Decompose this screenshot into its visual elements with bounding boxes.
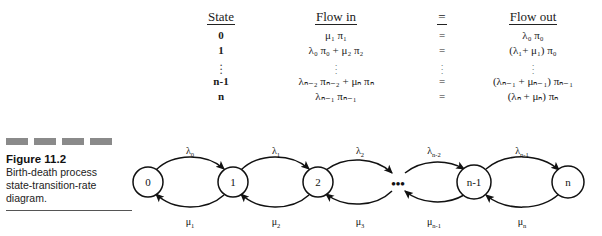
birth-transition-arcs <box>156 157 559 173</box>
cell-equals: = <box>420 43 464 58</box>
header-flow-in-label: Flow in <box>315 10 357 25</box>
state-nodes-ellipsis: ••• <box>391 176 405 191</box>
header-flow-out-label: Flow out <box>509 10 558 25</box>
table-row: 0 μ₁ π₁ = λ₀ π₀ <box>190 28 602 43</box>
cell-flow-out: (λₙ₋₁ + μₙ₋₁) πₙ₋₁ <box>464 74 602 89</box>
state-node-n-minus-1-label: n-1 <box>467 176 482 188</box>
flow-balance-table: State Flow in = Flow out 0 μ₁ π₁ = λ₀ π₀ <box>190 10 602 104</box>
caption-line: state-transition-rate <box>6 179 134 192</box>
state-node-n-label: n <box>565 176 571 188</box>
birth-arc-ellipsis-to-n-1 <box>405 162 464 173</box>
cell-state: n <box>190 89 252 104</box>
cell-state-ellipsis: ... <box>190 58 252 74</box>
birth-arc-2-to-ellipsis <box>326 160 392 173</box>
cell-flow-in-ellipsis: ... <box>252 58 420 74</box>
cell-state: 1 <box>190 43 252 58</box>
table-row: n λₙ₋₁ πₙ₋₁ = (λₙ + μₙ) πₙ <box>190 89 602 104</box>
table-header-row: State Flow in = Flow out <box>190 10 602 28</box>
header-flow-out: Flow out <box>464 10 602 28</box>
birth-rate-labels: λ0 λ1 λ2 λn-2 λn-1 <box>186 145 529 158</box>
figure-caption-block: Figure 11.2 Birth-death process state-tr… <box>6 138 134 211</box>
birth-arc-n-1-to-n <box>486 157 559 170</box>
cell-flow-in: λ₀ π₀ + μ₂ π₂ <box>252 43 420 58</box>
death-arc-2-to-1 <box>241 194 309 207</box>
dash-segment <box>62 138 84 145</box>
table-body: 0 μ₁ π₁ = λ₀ π₀ 1 λ₀ π₀ + μ₂ π₂ = (λ₁+ μ… <box>190 28 602 104</box>
cell-equals-ellipsis: ... <box>420 58 464 74</box>
cell-flow-in: μ₁ π₁ <box>252 28 420 43</box>
state-node-1-label: 1 <box>230 176 236 188</box>
birth-rate-label-lambda-1: λ1 <box>272 145 280 158</box>
cell-flow-out-ellipsis: ... <box>464 58 602 74</box>
figure-number: Figure 11.2 <box>6 153 134 165</box>
dash-segment <box>6 138 28 145</box>
death-rate-label-mu-n: μn <box>518 216 527 229</box>
cell-state: n-1 <box>190 74 252 89</box>
death-transition-arcs <box>156 191 559 207</box>
state-nodes: 0 1 2 n-1 n ••• <box>133 165 584 199</box>
death-rate-labels: μ1 μ2 μ3 μn-1 μn <box>186 216 527 229</box>
cell-equals: = <box>420 89 464 104</box>
cell-flow-out: λ₀ π₀ <box>464 28 602 43</box>
birth-rate-label-lambda-0: λ0 <box>186 145 194 158</box>
header-equals-label: = <box>437 10 446 25</box>
death-arc-n-1-to-ellipsis <box>405 191 464 202</box>
cell-flow-in: λₙ₋₂ πₙ₋₂ + μₙ πₙ <box>252 74 420 89</box>
header-state-label: State <box>207 10 235 25</box>
cell-flow-out: (λₙ + μₙ) πₙ <box>464 89 602 104</box>
state-node-0-label: 0 <box>145 176 151 188</box>
cell-equals: = <box>420 74 464 89</box>
decorative-dash-rule <box>6 138 134 145</box>
caption-line: Birth-death process <box>6 166 134 179</box>
birth-rate-label-lambda-n-1: λn-1 <box>515 145 529 158</box>
table-row: 1 λ₀ π₀ + μ₂ π₂ = (λ₁+ μ₁) π₀ <box>190 43 602 58</box>
dash-segment <box>90 138 112 145</box>
dash-segment <box>34 138 56 145</box>
cell-equals: = <box>420 28 464 43</box>
caption-line: diagram. <box>6 192 134 205</box>
balance-equation-table: State Flow in = Flow out 0 μ₁ π₁ = λ₀ π₀ <box>190 10 602 122</box>
death-rate-label-mu-3: μ3 <box>356 216 365 229</box>
birth-rate-label-lambda-n-2: λn-2 <box>427 145 441 158</box>
caption-divider <box>6 210 132 211</box>
birth-arc-0-to-1 <box>156 157 224 170</box>
death-arc-n-to-n-1 <box>486 194 559 207</box>
death-rate-label-mu-n-1: μn-1 <box>427 216 441 229</box>
cell-flow-out: (λ₁+ μ₁) π₀ <box>464 43 602 58</box>
table-row: n-1 λₙ₋₂ πₙ₋₂ + μₙ πₙ = (λₙ₋₁ + μₙ₋₁) πₙ… <box>190 74 602 89</box>
birth-rate-label-lambda-2: λ2 <box>356 145 364 158</box>
death-rate-label-mu-1: μ1 <box>186 216 195 229</box>
death-rate-label-mu-2: μ2 <box>272 216 281 229</box>
header-flow-in: Flow in <box>252 10 420 28</box>
cell-state: 0 <box>190 28 252 43</box>
birth-arc-1-to-2 <box>241 157 309 170</box>
state-node-2-label: 2 <box>315 176 321 188</box>
state-transition-rate-diagram: 0 1 2 n-1 n ••• λ0 λ1 λ2 λn-2 λn-1 μ1 μ2… <box>120 128 602 236</box>
death-arc-1-to-0 <box>156 194 224 207</box>
cell-flow-in: λₙ₋₁ πₙ₋₁ <box>252 89 420 104</box>
table-row-ellipsis: ... ... ... ... <box>190 58 602 74</box>
header-state: State <box>190 10 252 28</box>
header-equals: = <box>420 10 464 28</box>
death-arc-ellipsis-to-2 <box>326 191 392 204</box>
